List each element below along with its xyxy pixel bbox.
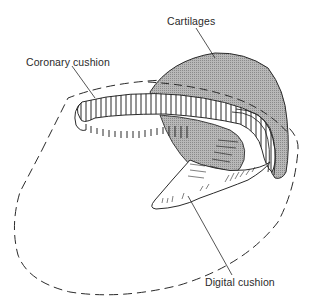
label-digital-cushion: Digital cushion [205,276,275,288]
hoof-diagram: Cartilages Coronary cushion Digital cush… [0,0,311,302]
leader-line-digital-cushion [188,196,232,275]
label-coronary-cushion: Coronary cushion [26,56,110,68]
digital-cushion-shape [152,160,270,209]
leader-line-cartilages [196,28,215,58]
hoof-diagram-svg [0,0,311,302]
label-cartilages: Cartilages [167,15,215,27]
